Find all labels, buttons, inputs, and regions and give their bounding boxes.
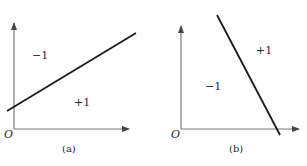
- panel-a-decision-line: [7, 33, 136, 111]
- panel-a-origin-label: O: [4, 128, 13, 141]
- panel-b-region-minus-label: −1: [205, 80, 221, 93]
- panel-b-decision-line: [217, 15, 280, 135]
- panel-b-origin-label: O: [171, 128, 180, 141]
- panel-a-caption: (a): [62, 143, 76, 154]
- panel-a-region-plus-label: +1: [74, 96, 90, 109]
- panel-a-region-minus-label: −1: [32, 49, 48, 62]
- diagram-canvas: −1 +1 O (a) +1 −1 O (b): [0, 0, 307, 166]
- panel-b-region-plus-label: +1: [256, 44, 272, 57]
- panel-a: −1 +1 O (a): [4, 23, 136, 154]
- panel-b: +1 −1 O (b): [171, 15, 299, 154]
- panel-b-caption: (b): [229, 143, 243, 154]
